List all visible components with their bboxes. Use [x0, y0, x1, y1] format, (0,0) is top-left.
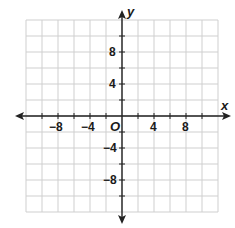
x-tick-label-neg8: −8 — [49, 121, 63, 133]
y-tick-label-8: 8 — [109, 46, 116, 58]
x-axis-label: x — [221, 99, 228, 112]
x-tick-label-8: 8 — [182, 121, 189, 133]
coordinate-plane — [0, 0, 235, 228]
y-tick-label-neg8: −8 — [103, 174, 117, 186]
y-tick-label-neg4: −4 — [103, 142, 117, 154]
y-axis-label: y — [127, 5, 134, 18]
x-tick-label-neg4: −4 — [81, 121, 95, 133]
x-axis — [15, 112, 231, 120]
origin-label: O — [110, 120, 120, 133]
y-tick-label-4: 4 — [109, 78, 116, 90]
x-tick-label-4: 4 — [150, 121, 157, 133]
y-axis — [118, 10, 126, 224]
